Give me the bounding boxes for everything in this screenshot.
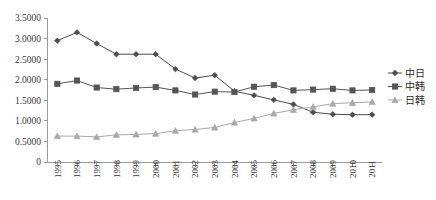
y-axis: 00.50001.00001.50002.00002.50003.00003.5…	[15, 13, 48, 167]
data-point-square	[173, 88, 178, 93]
data-point-square	[55, 81, 60, 86]
data-point-diamond	[392, 70, 397, 75]
data-point-square	[370, 87, 375, 92]
data-point-diamond	[74, 30, 79, 35]
x-tick-label: 1997	[92, 160, 102, 179]
series-group	[54, 30, 375, 140]
data-point-diamond	[133, 52, 138, 57]
line-chart: 00.50001.00001.50002.00002.50003.00003.5…	[0, 0, 436, 200]
x-tick-label: 2007	[289, 160, 299, 179]
x-tick-label: 2010	[348, 160, 358, 179]
x-axis: 1995199619971998199920002001200220032004…	[48, 160, 383, 179]
y-tick-label: 3.5000	[15, 13, 41, 23]
x-tick-label: 2004	[230, 160, 240, 179]
legend-label: 中日	[405, 67, 425, 79]
y-tick-label: 2.5000	[15, 55, 41, 65]
x-tick-label: 1999	[131, 160, 141, 179]
data-point-square	[392, 84, 397, 89]
data-point-square	[133, 85, 138, 90]
x-tick-label: 1996	[72, 160, 82, 179]
legend-label: 日韩	[405, 94, 425, 106]
legend-item-1[interactable]: 中日	[388, 67, 425, 79]
data-point-square	[291, 88, 296, 93]
data-point-square	[252, 84, 257, 89]
y-tick-label: 0.5000	[15, 137, 41, 147]
x-tick-label: 2003	[210, 160, 220, 179]
data-point-diamond	[330, 112, 335, 117]
data-point-square	[114, 87, 119, 92]
data-point-square	[311, 87, 316, 92]
data-point-diamond	[55, 38, 60, 43]
data-point-diamond	[94, 41, 99, 46]
data-point-square	[94, 85, 99, 90]
y-tick-label: 1.0000	[15, 116, 41, 126]
y-tick-label: 0	[36, 157, 41, 167]
y-tick-label: 2.0000	[15, 75, 41, 85]
series-2	[55, 78, 375, 97]
data-point-square	[271, 82, 276, 87]
data-point-square	[350, 88, 355, 93]
x-tick-label: 2001	[171, 160, 181, 178]
y-tick-label: 3.0000	[15, 34, 41, 44]
data-point-square	[192, 92, 197, 97]
legend-item-2[interactable]: 中韩	[388, 80, 425, 92]
legend-label: 中韩	[405, 80, 425, 92]
x-tick-label: 1995	[53, 160, 63, 179]
data-point-diamond	[369, 112, 374, 117]
x-tick-label: 2008	[308, 160, 318, 179]
y-tick-label: 1.5000	[15, 96, 41, 106]
data-point-diamond	[271, 97, 276, 102]
x-tick-label: 2000	[151, 160, 161, 179]
legend-item-3[interactable]: 日韩	[388, 94, 425, 106]
y-tick-group: 00.50001.00001.50002.00002.50003.00003.5…	[15, 13, 48, 167]
x-tick-label: 1998	[112, 160, 122, 179]
data-point-diamond	[251, 93, 256, 98]
data-point-square	[330, 86, 335, 91]
data-point-diamond	[114, 52, 119, 57]
x-tick-label: 2002	[190, 160, 200, 178]
x-tick-label: 2006	[269, 160, 279, 179]
data-point-diamond	[310, 110, 315, 115]
data-point-square	[232, 89, 237, 94]
data-point-square	[212, 89, 217, 94]
x-tick-label: 2005	[249, 160, 259, 179]
data-point-diamond	[350, 112, 355, 117]
chart-legend: 中日中韩日韩	[388, 67, 425, 106]
data-point-diamond	[192, 75, 197, 80]
data-point-square	[153, 85, 158, 90]
series-3	[54, 99, 375, 140]
x-tick-label: 2009	[328, 160, 338, 179]
series-line	[57, 102, 372, 137]
x-tick-group: 1995199619971998199920002001200220032004…	[53, 160, 378, 179]
x-tick-label: 2011	[367, 160, 377, 178]
data-point-square	[74, 78, 79, 83]
chart-canvas: 00.50001.00001.50002.00002.50003.00003.5…	[0, 0, 436, 200]
